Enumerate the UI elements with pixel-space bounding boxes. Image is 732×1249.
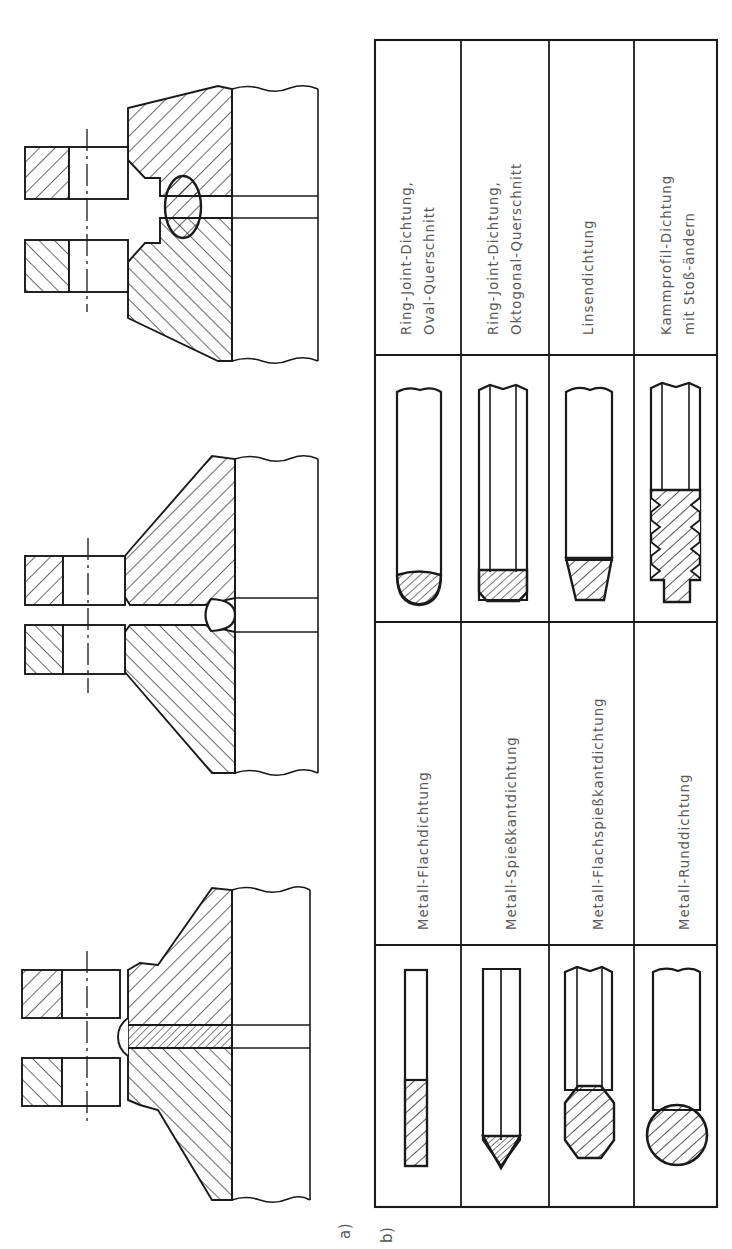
profile-metall-flachdichtung (405, 970, 427, 1166)
profile-ring-joint-oval (397, 388, 441, 605)
part-label-b: b) (378, 1227, 396, 1243)
profile-kammprofil (651, 383, 700, 602)
technical-figure: Ring-Joint-Dichtung, Oval-Querschnitt Ri… (0, 0, 732, 1249)
profile-metall-runddichtung (647, 969, 707, 1165)
profile-ring-joint-oktogonal (479, 385, 527, 601)
part-label-a: a) (336, 1223, 354, 1239)
profile-linsendichtung (566, 388, 612, 600)
profile-metall-spiesskantdichtung (483, 969, 520, 1168)
part-b-gasket-table (0, 0, 732, 1249)
profile-metall-flachspiesskantdichtung (565, 967, 614, 1158)
